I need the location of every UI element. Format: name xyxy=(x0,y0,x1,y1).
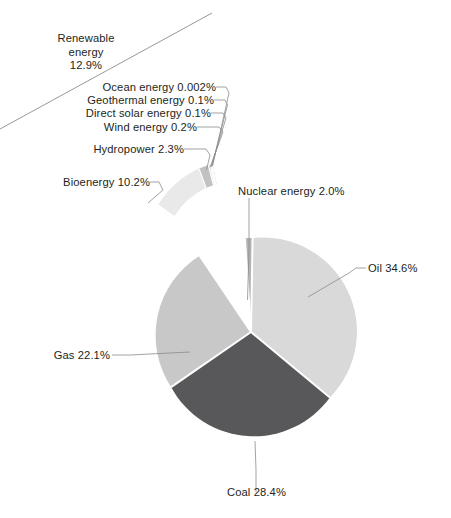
pie-chart-figure: Renewable energy 12.9% Ocean energy 0.00… xyxy=(0,0,451,518)
label-renewable-line1: Renewable xyxy=(38,32,134,46)
label-geothermal-energy: Geothermal energy 0.1% xyxy=(54,94,214,108)
label-coal: Coal 28.4% xyxy=(227,486,286,500)
band-slice-bioenergy[interactable] xyxy=(158,169,206,216)
leader-line-coal xyxy=(255,441,256,492)
leader-line-bioenergy xyxy=(148,182,163,203)
leader-line-wind xyxy=(197,127,223,168)
main-pie-group xyxy=(156,237,357,436)
label-wind-energy: Wind energy 0.2% xyxy=(77,121,197,135)
label-oil: Oil 34.6% xyxy=(368,262,418,276)
label-ocean-energy: Ocean energy 0.002% xyxy=(56,81,216,95)
label-renewable-line2: energy xyxy=(38,46,134,60)
label-nuclear-energy: Nuclear energy 2.0% xyxy=(238,185,345,199)
pie-chart-graphic xyxy=(0,0,451,518)
renewable-exploded-band xyxy=(158,164,216,216)
label-bioenergy: Bioenergy 10.2% xyxy=(30,176,150,190)
label-renewable-line3: 12.9% xyxy=(38,59,134,73)
label-direct-solar-energy: Direct solar energy 0.1% xyxy=(51,107,211,121)
label-gas: Gas 22.1% xyxy=(22,349,110,363)
label-hydropower: Hydropower 2.3% xyxy=(74,143,184,157)
label-renewable-energy: Renewable energy 12.9% xyxy=(38,32,134,73)
